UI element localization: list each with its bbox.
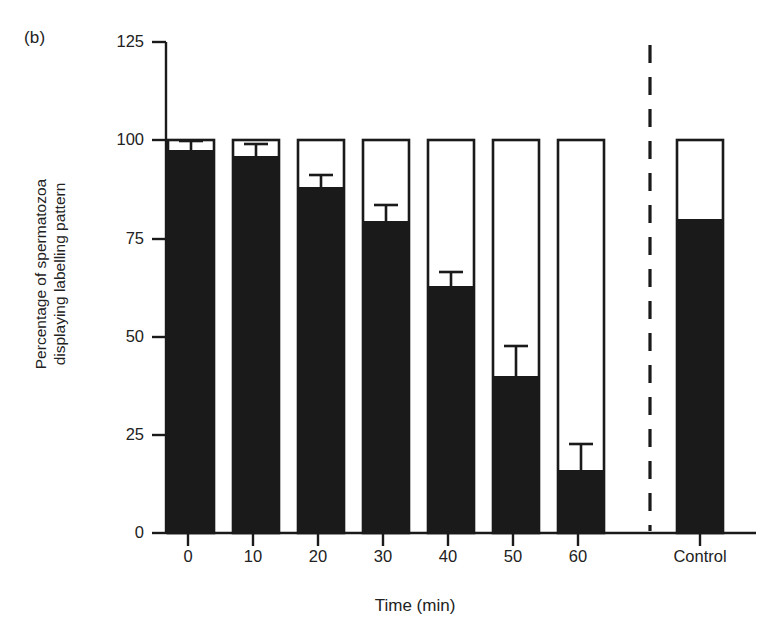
bar-fill-black — [678, 219, 722, 533]
bar-fill-black — [494, 376, 538, 533]
bar-fill-black — [364, 221, 408, 533]
bar-group-2[interactable] — [298, 140, 344, 533]
bar-fill-black — [429, 286, 473, 533]
bar-group-4[interactable] — [428, 140, 474, 533]
figure-panel-b: (b) Percentage of spermatozoa displaying… — [0, 0, 765, 636]
bar-fill-black — [559, 470, 603, 533]
bar-group-7[interactable] — [677, 140, 723, 533]
bar-fill-black — [299, 187, 343, 533]
y-axis-ticks — [152, 42, 166, 533]
bar-fill-black — [169, 150, 213, 533]
bar-group-1[interactable] — [233, 140, 279, 533]
bar-fill-black — [234, 156, 278, 533]
bar-group-0[interactable] — [168, 140, 214, 533]
bar-group-5[interactable] — [493, 140, 539, 533]
x-axis-ticks — [188, 533, 700, 546]
bar-group-6[interactable] — [558, 140, 604, 533]
bar-group-3[interactable] — [363, 140, 409, 533]
